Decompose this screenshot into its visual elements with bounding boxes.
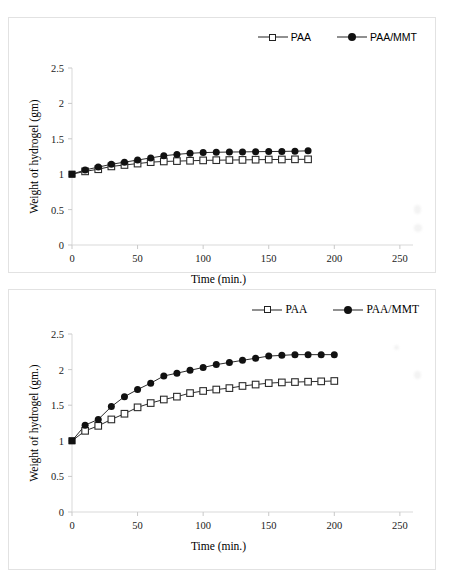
svg-text:2.5: 2.5 [51, 329, 64, 340]
scan-artifact [414, 371, 421, 379]
svg-text:100: 100 [195, 253, 211, 264]
top-chart-svg: 00.511.522.5050100150200250Time (min.)We… [9, 18, 437, 274]
svg-text:250: 250 [392, 253, 408, 264]
svg-text:200: 200 [326, 520, 342, 531]
svg-text:0.5: 0.5 [51, 471, 64, 482]
scan-artifact [414, 205, 421, 214]
svg-text:0: 0 [69, 520, 74, 531]
svg-text:0: 0 [59, 240, 64, 251]
scan-artifact [394, 345, 399, 350]
svg-text:100: 100 [195, 520, 211, 531]
bottom-chart-plot-area: PAA PAA/MMT 00.511.522.5050100150200250T… [9, 290, 435, 569]
svg-text:0: 0 [69, 253, 74, 264]
top-chart-plot-area: PAA PAA/MMT 00.511.522.5050100150200250T… [9, 18, 435, 272]
svg-text:50: 50 [132, 520, 143, 531]
svg-text:2.5: 2.5 [51, 63, 64, 74]
bottom-chart-svg: 00.511.522.5050100150200250Time (min.)We… [9, 290, 437, 571]
bottom-chart-panel: PAA PAA/MMT 00.511.522.5050100150200250T… [8, 289, 436, 570]
svg-text:1.5: 1.5 [51, 400, 64, 411]
svg-text:0.5: 0.5 [51, 205, 64, 216]
svg-text:2: 2 [59, 98, 64, 109]
svg-text:Time (min.): Time (min.) [191, 273, 246, 286]
scan-artifact [414, 224, 422, 232]
svg-text:250: 250 [392, 520, 408, 531]
svg-text:Weight of hydrogel (gm.): Weight of hydrogel (gm.) [28, 364, 41, 481]
svg-text:200: 200 [326, 253, 342, 264]
svg-text:150: 150 [261, 520, 277, 531]
svg-text:2: 2 [59, 365, 64, 376]
svg-text:50: 50 [132, 253, 143, 264]
svg-text:1.5: 1.5 [51, 134, 64, 145]
svg-text:150: 150 [261, 253, 277, 264]
svg-text:1: 1 [59, 169, 64, 180]
svg-text:0: 0 [59, 507, 64, 518]
top-chart-panel: PAA PAA/MMT 00.511.522.5050100150200250T… [8, 17, 436, 273]
svg-text:1: 1 [59, 436, 64, 447]
svg-text:Weight of hydrogel (gm): Weight of hydrogel (gm) [28, 99, 41, 214]
svg-text:Time (min.): Time (min.) [191, 540, 246, 553]
